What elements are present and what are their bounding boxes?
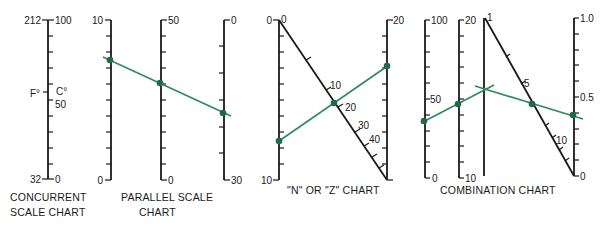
combination-axis-a-top-label: 100 <box>431 15 448 26</box>
parallel-caption-line1: PARALLEL SCALE <box>121 191 213 203</box>
n-chart-diagonal-10-label: 10 <box>330 80 342 91</box>
concurrent-scale-chart: 212 F° 32 100 C° 50 0 CONCURRENT SCALE C… <box>10 15 87 218</box>
parallel-point-3 <box>220 110 227 117</box>
n-or-z-chart: 0 10 20 0 10 20 30 <box>261 14 405 196</box>
combination-isopleth-line-2 <box>475 86 583 119</box>
parallel-axis-1-bottom-label: 0 <box>97 175 103 186</box>
n-chart-diagonal-30-label: 30 <box>358 120 370 131</box>
combination-axis-a-bottom-label: 0 <box>432 173 438 184</box>
combination-diagonal <box>485 18 574 176</box>
n-chart-caption: "N" OR "Z" CHART <box>287 184 380 196</box>
combination-right-bottom-label: 0 <box>580 171 586 182</box>
parallel-axis-3-bottom-label: 30 <box>231 175 243 186</box>
parallel-axis-3-top-label: 0 <box>231 15 237 26</box>
concurrent-caption-line1: CONCURRENT <box>10 191 87 203</box>
celsius-top-label: 100 <box>55 15 72 26</box>
combination-chart: 100 50 0 20 10 1 <box>421 12 595 196</box>
n-chart-point-diagonal <box>331 100 338 107</box>
n-chart-left-top-label: 0 <box>266 15 272 26</box>
combination-axis-b-top-label: 20 <box>465 15 477 26</box>
combination-axis-a-mid-label: 50 <box>430 94 442 105</box>
nomograph-figure: 212 F° 32 100 C° 50 0 CONCURRENT SCALE C… <box>0 0 612 226</box>
parallel-isopleth-line <box>103 57 231 116</box>
concurrent-caption-line2: SCALE CHART <box>10 206 86 218</box>
n-chart-point-right <box>384 63 391 70</box>
fahrenheit-top-label: 212 <box>24 15 41 26</box>
parallel-scale-chart: 10 0 50 0 0 30 <box>92 15 243 218</box>
n-chart-point-left <box>276 138 283 145</box>
fahrenheit-bottom-label: 32 <box>30 174 42 185</box>
combination-right-top-label: 1.0 <box>580 13 594 24</box>
parallel-axis-1-top-label: 10 <box>92 15 104 26</box>
parallel-axis-2-top-label: 50 <box>168 15 180 26</box>
n-chart-diagonal-0-label: 0 <box>281 14 287 25</box>
n-chart-diagonal-20-label: 20 <box>345 102 357 113</box>
parallel-point-2 <box>157 80 164 87</box>
n-chart-right-top-label: 20 <box>393 15 405 26</box>
combination-axis-b-bottom-label: 10 <box>465 173 477 184</box>
n-chart-left-bottom-label: 10 <box>261 175 273 186</box>
combination-point-right <box>570 112 577 119</box>
parallel-point-1 <box>107 57 114 64</box>
fahrenheit-unit-label: F° <box>30 88 40 99</box>
celsius-bottom-label: 0 <box>55 174 61 185</box>
combination-point-diagonal <box>529 101 536 108</box>
combination-diagonal-10-label: 10 <box>556 135 568 146</box>
celsius-unit-label: C° <box>56 86 67 97</box>
parallel-axis-2-bottom-label: 0 <box>168 175 174 186</box>
celsius-mid-label: 50 <box>55 99 67 110</box>
combination-right-mid-label: 0.5 <box>580 92 594 103</box>
combination-point-a <box>421 118 428 125</box>
combination-diagonal-5-label: 5 <box>524 78 530 89</box>
parallel-caption-line2: CHART <box>139 206 176 218</box>
n-chart-diagonal-40-label: 40 <box>369 134 381 145</box>
combination-caption: COMBINATION CHART <box>440 184 556 196</box>
combination-point-b <box>455 101 462 108</box>
